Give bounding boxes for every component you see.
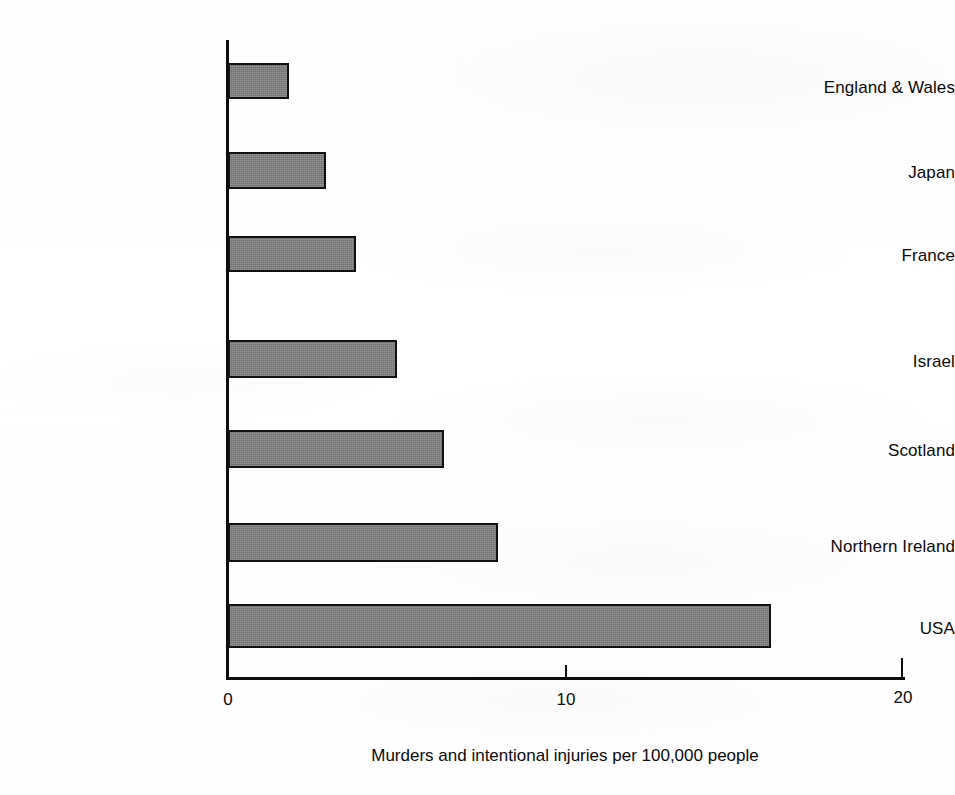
category-label-france: France — [747, 246, 955, 266]
bar-northern-ireland — [228, 523, 498, 562]
bar-scotland — [228, 430, 444, 468]
horizontal-bar-chart: 0 10 20 England & Wales Japan France Isr… — [0, 0, 955, 795]
bar-japan — [228, 152, 326, 189]
bar-usa — [228, 604, 771, 648]
category-label-usa: USA — [747, 619, 955, 639]
category-label-northern-ireland: Northern Ireland — [747, 537, 955, 557]
category-label-israel: Israel — [747, 352, 955, 372]
x-tick-mark-0 — [227, 662, 229, 680]
x-tick-mark-10 — [565, 665, 567, 679]
category-label-scotland: Scotland — [747, 441, 955, 461]
bar-france — [228, 236, 356, 272]
x-tick-label-20: 20 — [894, 688, 913, 708]
x-tick-label-10: 10 — [557, 690, 576, 710]
x-tick-mark-20 — [901, 658, 903, 680]
chart-page: 0 10 20 England & Wales Japan France Isr… — [0, 0, 955, 795]
bar-israel — [228, 340, 397, 378]
x-tick-label-0: 0 — [223, 690, 232, 710]
category-label-england-wales: England & Wales — [747, 78, 955, 98]
x-axis-title: Murders and intentional injuries per 100… — [371, 746, 758, 766]
category-label-japan: Japan — [747, 163, 955, 183]
bar-england-wales — [228, 63, 289, 99]
